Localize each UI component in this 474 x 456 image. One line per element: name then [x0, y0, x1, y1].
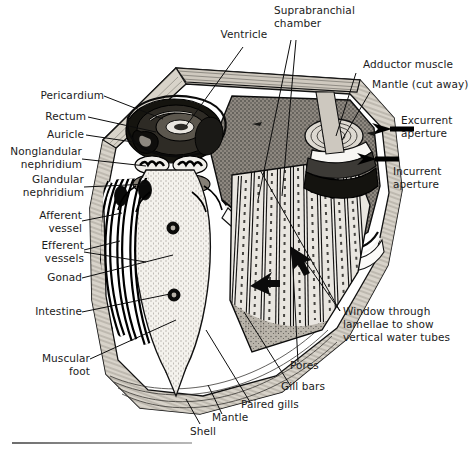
- label-mantle: Mantle: [212, 411, 272, 424]
- label-glandular-nephridium-line1: Glandular: [2, 173, 84, 186]
- label-afferent-vessel-line2: vessel: [8, 222, 82, 235]
- label-efferent-vessels-line2: vessels: [8, 252, 84, 265]
- label-mantle-cut-away: Mantle (cut away): [372, 78, 474, 91]
- label-muscular-foot-line2: foot: [8, 365, 90, 378]
- label-excurrent-aperture-line2: aperture: [401, 127, 473, 140]
- label-incurrent-aperture-line2: aperture: [393, 178, 465, 191]
- label-window-line2: lamellae to show: [343, 318, 469, 331]
- label-efferent-vessels-line1: Efferent: [8, 239, 84, 252]
- footer-rule: [12, 442, 192, 444]
- label-afferent-vessel-line1: Afferent: [8, 209, 82, 222]
- incurrent-arrow-shaft: [375, 157, 399, 162]
- label-nonglandular-nephridium-line2: nephridium: [2, 158, 82, 171]
- label-glandular-nephridium-line2: nephridium: [2, 186, 84, 199]
- label-suprabranchial-chamber-line1: Suprabranchial: [274, 4, 366, 17]
- label-ventricle: Ventricle: [216, 28, 272, 41]
- label-pores: Pores: [290, 359, 342, 372]
- bivalve-anatomy-figure: Ventricle Suprabranchial chamber Adducto…: [0, 0, 474, 456]
- label-excurrent-aperture-line1: Excurrent: [401, 114, 473, 127]
- label-intestine: Intestine: [8, 305, 82, 318]
- label-suprabranchial-chamber-line2: chamber: [274, 17, 366, 30]
- label-gill-bars: Gill bars: [281, 380, 349, 393]
- label-adductor-muscle: Adductor muscle: [363, 58, 473, 71]
- label-paired-gills: Paired gills: [241, 398, 321, 411]
- label-incurrent-aperture-line1: Incurrent: [393, 165, 465, 178]
- label-pericardium: Pericardium: [8, 89, 104, 102]
- label-auricle: Auricle: [8, 128, 84, 141]
- label-window-line1: Window through: [343, 305, 469, 318]
- label-shell: Shell: [190, 425, 250, 438]
- label-window-line3: vertical water tubes: [343, 331, 469, 344]
- label-rectum: Rectum: [8, 110, 86, 123]
- label-nonglandular-nephridium-line1: Nonglandular: [2, 145, 82, 158]
- label-muscular-foot-line1: Muscular: [8, 352, 90, 365]
- label-gonad: Gonad: [8, 271, 82, 284]
